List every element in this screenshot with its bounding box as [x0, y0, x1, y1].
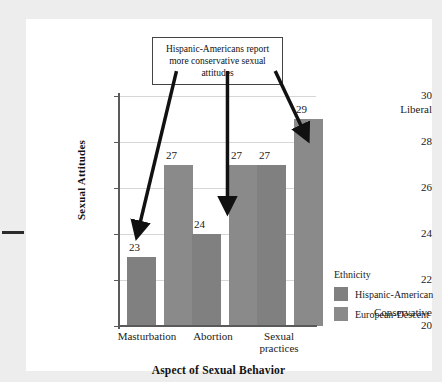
y-tick-label-26: 26: [346, 181, 432, 193]
y-tick-22: [114, 280, 119, 281]
y-tick-20: [114, 326, 119, 327]
y-tick-label-30: 30: [346, 89, 432, 101]
x-axis-title: Aspect of Sexual Behavior: [86, 364, 351, 376]
legend-item-european-descent[interactable]: European-Descent: [334, 307, 442, 321]
legend-swatch-icon: [334, 287, 348, 301]
legend: Ethnicity Hispanic-American European-Des…: [334, 269, 442, 327]
bar-masturbation-european[interactable]: [164, 165, 193, 326]
legend-item-hispanic-american[interactable]: Hispanic-American: [334, 287, 442, 301]
annotation-callout-box: Hispanic-Americans report more conservat…: [152, 37, 283, 85]
x-axis-line: [119, 325, 317, 327]
y-axis-title: Sexual Attitudes: [75, 120, 87, 240]
bar-abortion-hispanic[interactable]: [192, 234, 221, 326]
gridline-26: [119, 188, 316, 189]
gridline-28: [119, 142, 316, 143]
bar-abortion-european[interactable]: [229, 165, 258, 326]
bar-practices-hispanic[interactable]: [257, 165, 286, 326]
x-tick-label-line1: Sexual: [244, 330, 314, 342]
x-tick-label-line1: Abortion: [178, 330, 248, 342]
y-axis-anchor-liberal: Liberal: [346, 103, 432, 115]
bar-value-label: 29: [279, 103, 324, 115]
y-tick-26: [114, 188, 119, 189]
page-edge-mark: [2, 231, 24, 234]
y-tick-28: [114, 142, 119, 143]
y-tick-30: [114, 96, 119, 97]
y-tick-label-24: 24: [346, 227, 432, 239]
bar-masturbation-hispanic[interactable]: [127, 257, 156, 326]
bar-value-label: 27: [242, 149, 287, 161]
x-tick-label-line2: practices: [244, 342, 314, 354]
y-tick-24: [114, 234, 119, 235]
bar-value-label: 27: [149, 149, 194, 161]
x-tick-label-sexual-practices: Sexual practices: [244, 330, 314, 354]
figure-container: 23 27 24 27 27 29 30 Liberal 28 26 24 22…: [0, 0, 442, 382]
legend-swatch-icon: [334, 307, 348, 321]
bar-value-label: 23: [112, 241, 157, 253]
bar-practices-european[interactable]: [294, 119, 323, 326]
y-axis-line: [118, 93, 120, 329]
x-tick-label-line1: Masturbation: [107, 330, 187, 342]
x-tick-label-masturbation: Masturbation: [107, 330, 187, 342]
gridline-30: [119, 96, 316, 97]
figure-panel: 23 27 24 27 27 29 30 Liberal 28 26 24 22…: [26, 19, 432, 371]
y-tick-label-28: 28: [346, 135, 432, 147]
x-tick-label-abortion: Abortion: [178, 330, 248, 342]
legend-item-label: European-Descent: [355, 309, 429, 320]
legend-item-label: Hispanic-American: [355, 289, 433, 300]
annotation-callout-text: Hispanic-Americans report more conservat…: [157, 43, 278, 79]
plot-area: [119, 96, 316, 326]
legend-title: Ethnicity: [334, 269, 442, 280]
bar-value-label: 24: [177, 218, 222, 230]
